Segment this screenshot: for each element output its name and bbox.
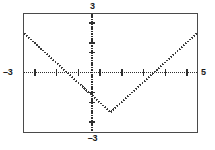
- graph-canvas: [0, 0, 215, 150]
- y-min-label: –3: [0, 133, 200, 143]
- calculator-viewport: 3 –3 –3 5: [0, 0, 215, 150]
- x-min-label: –3: [3, 67, 13, 77]
- x-max-label: 5: [201, 67, 206, 77]
- y-max-label: 3: [0, 1, 200, 11]
